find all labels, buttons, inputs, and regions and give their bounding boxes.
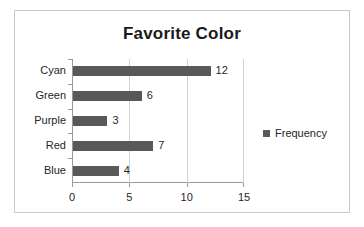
bar-red xyxy=(73,141,153,151)
x-tick-label: 15 xyxy=(229,191,259,203)
bar-blue xyxy=(73,166,119,176)
category-label-blue: Blue xyxy=(6,164,66,176)
bar-value-label: 6 xyxy=(147,89,153,101)
bar-value-label: 4 xyxy=(124,164,130,176)
legend-swatch-frequency xyxy=(263,130,270,137)
bar-row: 3 xyxy=(72,109,244,134)
category-label-purple: Purple xyxy=(6,114,66,126)
category-label-red: Red xyxy=(6,139,66,151)
category-label-cyan: Cyan xyxy=(6,64,66,76)
chart-legend: Frequency xyxy=(263,127,327,139)
legend-label-frequency: Frequency xyxy=(275,127,327,139)
bar-value-label: 7 xyxy=(158,139,164,151)
x-axis-tick xyxy=(187,183,188,187)
chart-title: Favorite Color xyxy=(15,24,349,44)
x-tick-label: 5 xyxy=(114,191,144,203)
plot-area: 473612 051015 BlueRedPurpleGreenCyan xyxy=(72,59,244,183)
x-tick-label: 0 xyxy=(57,191,87,203)
bar-cyan xyxy=(73,66,211,76)
bar-purple xyxy=(73,116,107,126)
bar-row: 6 xyxy=(72,84,244,109)
x-axis-tick xyxy=(243,183,244,187)
bar-row: 4 xyxy=(72,158,244,183)
bar-value-label: 3 xyxy=(112,114,118,126)
bar-row: 7 xyxy=(72,133,244,158)
chart-frame: Favorite Color 473612 051015 BlueRedPurp… xyxy=(14,10,350,213)
x-axis-tick xyxy=(72,183,73,187)
x-tick-label: 10 xyxy=(172,191,202,203)
bar-green xyxy=(73,91,142,101)
bar-row: 12 xyxy=(72,59,244,84)
x-axis-tick xyxy=(129,183,130,187)
category-label-green: Green xyxy=(6,89,66,101)
chart-screenshot: Favorite Color 473612 051015 BlueRedPurp… xyxy=(0,0,364,227)
bar-value-label: 12 xyxy=(216,64,228,76)
